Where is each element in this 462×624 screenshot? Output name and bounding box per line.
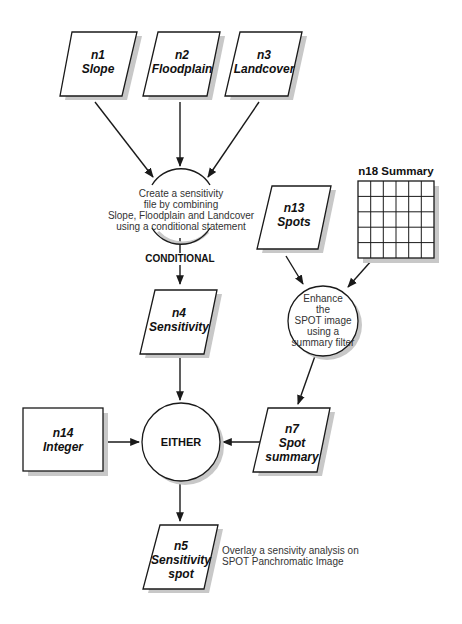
node-label: n18 Summary bbox=[358, 165, 434, 177]
node-n13-spots[interactable]: n13 Spots bbox=[257, 186, 336, 253]
node-n14-integer[interactable]: n14 Integer bbox=[23, 408, 108, 476]
node-name: Slope bbox=[82, 62, 115, 76]
function-text-line: the bbox=[316, 304, 330, 315]
function-text-line: using a bbox=[307, 326, 340, 337]
node-name: Spots bbox=[277, 215, 311, 229]
function-text-line: file by combining bbox=[144, 199, 218, 210]
function-either[interactable]: EITHER bbox=[142, 403, 224, 485]
function-conditional[interactable]: Create a sensitivity file by combining S… bbox=[108, 169, 255, 265]
circle-arc-top bbox=[152, 169, 210, 185]
node-n1-slope[interactable]: n1 Slope bbox=[60, 32, 142, 100]
function-text-line: Enhance bbox=[303, 293, 343, 304]
node-id: n2 bbox=[175, 48, 189, 62]
node-id: n7 bbox=[285, 422, 300, 436]
edge-n18-enhance bbox=[348, 260, 372, 287]
node-n7-spot-summary[interactable]: n7 Spot summary bbox=[253, 408, 335, 476]
node-n5-sensitivity-spot[interactable]: n5 Sensitivity spot bbox=[143, 525, 223, 593]
edge-n1-conditional bbox=[95, 102, 153, 177]
node-name: Sensitivity bbox=[149, 320, 210, 334]
note-line: Overlay a sensivity analysis on bbox=[222, 545, 359, 556]
node-name: Landcover bbox=[234, 62, 296, 76]
operator-label: CONDITIONAL bbox=[145, 253, 214, 264]
function-text-line: using a conditional statement bbox=[116, 221, 246, 232]
function-enhance[interactable]: Enhance the SPOT image using a summary f… bbox=[288, 286, 362, 360]
node-id: n3 bbox=[257, 48, 271, 62]
node-name: Floodplain bbox=[152, 62, 213, 76]
edge-n3-conditional bbox=[208, 102, 259, 177]
function-text-line: SPOT image bbox=[294, 315, 351, 326]
node-id: n4 bbox=[172, 306, 186, 320]
node-name-line2: summary bbox=[265, 450, 320, 464]
operator-label: EITHER bbox=[161, 436, 201, 448]
node-name-line1: Sensitivity bbox=[151, 553, 212, 567]
function-text-line: Slope, Floodplain and Landcover bbox=[108, 210, 255, 221]
node-id: n13 bbox=[284, 201, 305, 215]
node-id: n5 bbox=[174, 539, 188, 553]
note-line: SPOT Panchromatic Image bbox=[222, 556, 344, 567]
node-name-line1: Spot bbox=[279, 436, 307, 450]
edge-enhance-n7 bbox=[298, 356, 315, 404]
node-id: n1 bbox=[91, 48, 105, 62]
function-text-line: Create a sensitivity bbox=[139, 188, 223, 199]
overlay-note: Overlay a sensivity analysis on SPOT Pan… bbox=[222, 545, 359, 567]
node-name-line2: spot bbox=[168, 567, 194, 581]
node-id: n14 bbox=[53, 426, 74, 440]
node-n3-landcover[interactable]: n3 Landcover bbox=[225, 32, 307, 100]
node-n18-summary[interactable]: n18 Summary bbox=[358, 165, 439, 263]
edge-n13-enhance bbox=[286, 256, 303, 284]
node-name: Integer bbox=[43, 440, 84, 454]
function-text-line: summary filter bbox=[292, 337, 355, 348]
model-diagram: n1 Slope n2 Floodplain n3 Landcover Crea… bbox=[0, 0, 462, 624]
node-n4-sensitivity[interactable]: n4 Sensitivity bbox=[140, 290, 222, 358]
node-n2-floodplain[interactable]: n2 Floodplain bbox=[143, 32, 225, 100]
